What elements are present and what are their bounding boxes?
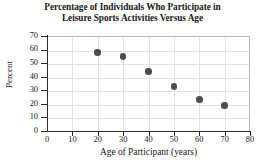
gridline-vertical [149, 37, 150, 131]
y-axis-tick-label: 30 [0, 86, 38, 94]
x-axis-tick-label: 0 [35, 136, 59, 144]
y-axis-tick [41, 36, 47, 37]
y-axis-tick [41, 50, 47, 51]
x-axis-tick-label: 10 [60, 136, 84, 144]
chart-title: Percentage of Individuals Who Participat… [10, 2, 255, 24]
x-axis-tick-label: 50 [162, 136, 186, 144]
y-axis-tick-label: 0 [0, 127, 38, 135]
chart-title-line-1: Percentage of Individuals Who Participat… [10, 2, 255, 13]
y-axis-tick [41, 90, 47, 91]
data-point [94, 49, 101, 56]
y-axis-tick [41, 117, 47, 118]
data-point [145, 68, 152, 75]
y-axis-line [47, 35, 48, 132]
chart-figure: Percentage of Individuals Who Participat… [0, 0, 265, 165]
plot-area [47, 36, 250, 131]
data-point [196, 96, 203, 103]
chart-title-line-2: Leisure Sports Activities Versus Age [10, 13, 255, 24]
data-point [171, 83, 178, 90]
y-axis-tick-label: 70 [0, 32, 38, 40]
y-axis-tick-label: 40 [0, 73, 38, 81]
gridline-vertical [225, 37, 226, 131]
x-axis-label: Age of Participant (years) [47, 147, 250, 157]
gridline-vertical [199, 37, 200, 131]
data-point [120, 53, 127, 60]
y-axis-tick-label: 60 [0, 45, 38, 53]
data-point [221, 102, 228, 109]
gridline-vertical [72, 37, 73, 131]
x-axis-tick-label: 60 [187, 136, 211, 144]
y-axis-tick-label: 50 [0, 59, 38, 67]
y-axis-tick [41, 77, 47, 78]
x-axis-tick-label: 20 [86, 136, 110, 144]
y-axis-tick-label: 20 [0, 100, 38, 108]
x-axis-tick-label: 80 [238, 136, 262, 144]
gridline-vertical [123, 37, 124, 131]
y-axis-tick-label: 10 [0, 113, 38, 121]
y-axis-tick [41, 131, 47, 132]
y-axis-tick [41, 104, 47, 105]
x-axis-tick-label: 30 [111, 136, 135, 144]
x-axis-tick-label: 40 [137, 136, 161, 144]
y-axis-tick [41, 63, 47, 64]
x-axis-tick-label: 70 [213, 136, 237, 144]
